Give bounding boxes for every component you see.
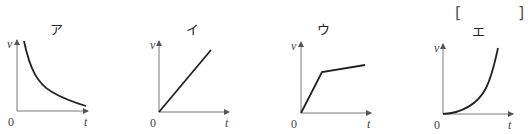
graph-e-origin: 0 (434, 118, 440, 132)
graph-i-title: イ (186, 22, 199, 37)
graph-i-origin: 0 (150, 116, 156, 130)
graph-u-t-label: t (367, 117, 371, 131)
graph-i-v-label: v (150, 38, 156, 52)
graph-u-v-label: v (291, 39, 297, 53)
graph-i-line (159, 50, 211, 112)
graph-e: エ v t 0 (434, 24, 513, 132)
graph-e-v-label: v (434, 41, 440, 55)
graph-e-t-label: t (508, 118, 512, 132)
answer-box-right: ] (518, 3, 524, 22)
graph-i: イ v t 0 (150, 22, 229, 130)
graph-a-v-label: v (7, 37, 13, 51)
answer-box: [ ] (455, 3, 524, 22)
graph-u-polyline (301, 65, 365, 113)
graph-u: ウ v t 0 (291, 22, 371, 131)
graph-e-curve (443, 48, 498, 114)
graph-i-t-label: t (225, 116, 229, 130)
graph-a: ア v t 0 (7, 22, 88, 129)
graph-options-diagram: [ ] ア v t 0 イ v t 0 ウ v t 0 エ v t 0 (0, 0, 528, 134)
graph-u-title: ウ (317, 22, 330, 37)
graph-u-origin: 0 (291, 117, 297, 131)
graph-e-title: エ (472, 24, 485, 39)
graph-a-title: ア (50, 22, 63, 37)
graph-a-curve (24, 41, 86, 106)
answer-box-left: [ (455, 3, 461, 22)
graph-a-origin: 0 (8, 115, 14, 129)
graph-a-t-label: t (84, 115, 88, 129)
